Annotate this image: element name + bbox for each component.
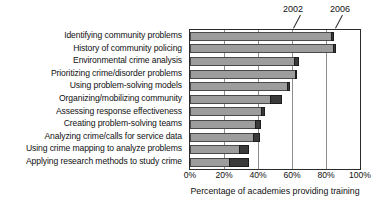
bar-segment-2006 [287, 82, 290, 91]
x-tick-label: 40% [249, 170, 266, 180]
x-axis-tick-labels: 0%20%40%60%80%100% [189, 170, 361, 184]
bar-row [190, 131, 360, 144]
category-label: Creating problem-solving teams [0, 117, 186, 130]
x-axis-title: Percentage of academies providing traini… [189, 186, 361, 196]
category-label: Identifying community problems [0, 29, 186, 42]
bar-row [190, 80, 360, 93]
bar-segment-2006 [295, 70, 297, 79]
bar-segment-2006 [333, 44, 336, 53]
annotation-2002-leader-line [293, 15, 301, 29]
annotation-2006-leader-line [335, 15, 343, 29]
category-label: Assessing response effectiveness [0, 105, 186, 118]
stacked-bar [190, 70, 297, 79]
bar-rows [190, 30, 360, 169]
bar-row [190, 68, 360, 81]
annotation-2002-label: 2002 [283, 4, 303, 14]
bar-segment-2006 [294, 57, 299, 66]
category-label: Using problem-solving models [0, 79, 186, 92]
bar-segment-2002 [190, 70, 295, 79]
stacked-bar [190, 82, 290, 91]
annotation-2006-label: 2006 [330, 4, 350, 14]
bar-segment-2002 [190, 95, 270, 104]
bar-row [190, 93, 360, 106]
bar-segment-2002 [190, 133, 253, 142]
bar-segment-2006 [229, 158, 249, 167]
bar-segment-2002 [190, 145, 239, 154]
category-label: Environmental crime analysis [0, 54, 186, 67]
category-label: Organizing/mobilizing community [0, 92, 186, 105]
bar-row [190, 143, 360, 156]
stacked-bar [190, 32, 334, 41]
x-tick-label: 0% [184, 170, 196, 180]
bar-segment-2006 [239, 145, 249, 154]
bar-segment-2006 [331, 32, 334, 41]
bar-row [190, 106, 360, 119]
bar-segment-2002 [190, 82, 287, 91]
stacked-bar [190, 95, 282, 104]
plot-area [189, 29, 361, 170]
stacked-bar [190, 107, 265, 116]
category-label: Prioritizing crime/disorder problems [0, 67, 186, 80]
bar-row [190, 156, 360, 169]
bar-segment-2006 [255, 120, 262, 129]
bar-row [190, 55, 360, 68]
bar-segment-2002 [190, 158, 229, 167]
bar-segment-2002 [190, 32, 331, 41]
x-tick-label: 20% [215, 170, 232, 180]
bar-row [190, 30, 360, 43]
bar-segment-2002 [190, 107, 261, 116]
bar-segment-2002 [190, 120, 255, 129]
bar-segment-2006 [270, 95, 282, 104]
stacked-bar [190, 44, 336, 53]
category-axis-labels: Identifying community problemsHistory of… [0, 29, 186, 168]
stacked-bar [190, 158, 249, 167]
bar-chart: 2002 2006 Identifying community problems… [0, 0, 375, 214]
stacked-bar [190, 57, 299, 66]
category-label: History of community policing [0, 42, 186, 55]
bar-row [190, 118, 360, 131]
category-label: Analyzing crime/calls for service data [0, 130, 186, 143]
bar-segment-2002 [190, 44, 333, 53]
bar-segment-2006 [253, 133, 260, 142]
x-tick-label: 60% [283, 170, 300, 180]
bar-row [190, 43, 360, 56]
stacked-bar [190, 120, 261, 129]
stacked-bar [190, 133, 260, 142]
stacked-bar [190, 145, 249, 154]
category-label: Applying research methods to study crime [0, 155, 186, 168]
x-tick-label: 100% [349, 170, 371, 180]
bar-segment-2002 [190, 57, 294, 66]
bar-segment-2006 [261, 107, 264, 116]
category-label: Using crime mapping to analyze problems [0, 142, 186, 155]
x-tick-label: 80% [317, 170, 334, 180]
